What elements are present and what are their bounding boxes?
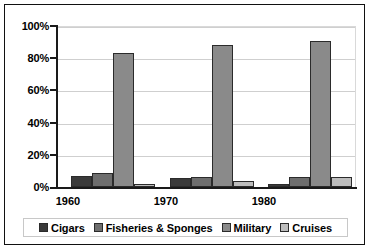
bar-1980-military[interactable]	[310, 41, 331, 188]
legend-swatch-fisheries	[94, 223, 103, 232]
bar-1970-military[interactable]	[212, 45, 233, 187]
bar-group-1970	[165, 27, 255, 187]
bar-1980-cigars[interactable]	[268, 184, 289, 187]
bar-1960-cigars[interactable]	[71, 176, 92, 187]
bar-1970-cigars[interactable]	[170, 178, 191, 187]
bar-1970-cruises[interactable]	[233, 181, 254, 187]
x-tick-label-1980: 1980	[214, 195, 314, 207]
x-tick-label-1960: 1960	[18, 195, 118, 207]
chart-frame: 100% 80% 60% 40% 20% 0%	[4, 4, 365, 245]
legend-label-cruises: Cruises	[292, 222, 332, 234]
bar-1970-fisheries[interactable]	[191, 177, 212, 187]
legend-label-cigars: Cigars	[51, 222, 85, 234]
y-tick-label-60: 60%	[7, 84, 49, 96]
legend-item-cruises[interactable]: Cruises	[280, 222, 332, 234]
bar-1980-fisheries[interactable]	[289, 177, 310, 187]
bar-1960-fisheries[interactable]	[92, 173, 113, 187]
y-tick-label-40: 40%	[7, 117, 49, 129]
legend-swatch-cruises	[280, 223, 289, 232]
legend-label-military: Military	[234, 222, 272, 234]
y-tick-label-100: 100%	[7, 20, 49, 32]
y-axis-labels: 100% 80% 60% 40% 20% 0%	[5, 5, 49, 246]
bar-1960-cruises[interactable]	[134, 184, 155, 187]
bar-1980-cruises[interactable]	[331, 177, 352, 187]
y-tick-label-20: 20%	[7, 149, 49, 161]
bar-group-1960	[66, 27, 156, 187]
legend-item-cigars[interactable]: Cigars	[39, 222, 85, 234]
chart-legend: Cigars Fisheries & Sponges Military Crui…	[23, 218, 348, 237]
y-tick-label-80: 80%	[7, 52, 49, 64]
y-tick-label-0: 0%	[7, 181, 49, 193]
plot-area	[58, 26, 356, 187]
x-axis-line	[50, 187, 357, 189]
legend-swatch-military	[222, 223, 231, 232]
bar-1960-military[interactable]	[113, 53, 134, 187]
x-tick-label-1970: 1970	[116, 195, 216, 207]
legend-item-fisheries[interactable]: Fisheries & Sponges	[94, 222, 213, 234]
legend-item-military[interactable]: Military	[222, 222, 272, 234]
legend-label-fisheries: Fisheries & Sponges	[106, 222, 213, 234]
legend-swatch-cigars	[39, 223, 48, 232]
bar-group-1980	[263, 27, 353, 187]
